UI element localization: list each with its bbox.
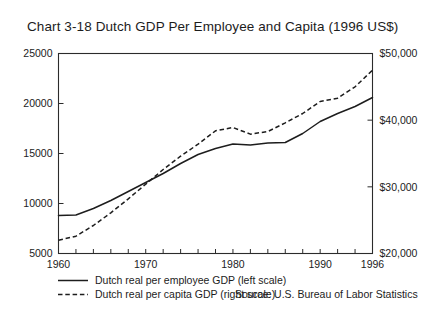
chart-plot-area: 500010000150002000025000 $20,000$30,000$… xyxy=(0,0,423,312)
y-axis-right-tick-label: $30,000 xyxy=(380,181,418,193)
y-axis-left-tick-label: 20000 xyxy=(23,97,52,109)
y-axis-left-labels: 500010000150002000025000 xyxy=(23,47,52,259)
plot-frame xyxy=(59,54,373,254)
y-axis-left-tick-label: 25000 xyxy=(23,47,52,59)
chart-figure: Chart 3-18 Dutch GDP Per Employee and Ca… xyxy=(0,0,423,312)
x-axis-tick-label: 1970 xyxy=(134,258,158,270)
x-axis-tick-label: 1996 xyxy=(361,258,385,270)
x-axis-tick-label: 1980 xyxy=(221,258,245,270)
y-axis-left-tick-label: 10000 xyxy=(23,197,52,209)
y-axis-right-tick-label: $50,000 xyxy=(380,47,418,59)
x-axis-labels: 19601970198019901996 xyxy=(47,258,385,270)
series-line-per-capita xyxy=(59,70,373,240)
y-axis-right-labels: $20,000$30,000$40,000$50,000 xyxy=(380,47,418,259)
x-axis-tick-label: 1990 xyxy=(308,258,332,270)
y-axis-left-tick-label: 15000 xyxy=(23,147,52,159)
legend-item-per-employee: Dutch real per employee GDP (left scale) xyxy=(58,274,286,288)
legend-swatch-dashed xyxy=(58,290,88,299)
series-line-per-employee xyxy=(59,98,373,216)
axis-tick-marks xyxy=(59,104,373,254)
y-axis-right-tick-label: $20,000 xyxy=(380,247,418,259)
data-series-group xyxy=(59,70,373,240)
legend-label-per-employee: Dutch real per employee GDP (left scale) xyxy=(95,274,286,288)
legend-swatch-solid xyxy=(58,276,88,285)
x-axis-tick-label: 1960 xyxy=(47,258,71,270)
source-note: Source: U.S. Bureau of Labor Statistics xyxy=(235,288,418,300)
y-axis-right-tick-label: $40,000 xyxy=(380,114,418,126)
